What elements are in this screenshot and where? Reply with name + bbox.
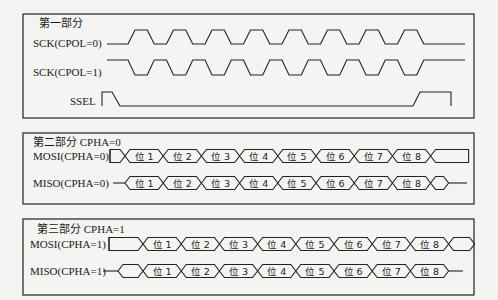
bit-label: 位 2: [173, 151, 192, 162]
mosi-cpha1-bus: 位 1位 2位 3位 4位 5位 6位 7位 8: [109, 238, 475, 251]
bit-label: 位 3: [211, 178, 230, 189]
mosi-cpha0-bus: 位 1位 2位 3位 4位 5位 6位 7位 8: [110, 150, 469, 163]
clock-path: [107, 60, 465, 75]
bit-label: 位 1: [153, 266, 172, 277]
signal-label-miso-cpha1: MISO(CPHA=1): [30, 265, 106, 278]
bit-label: 位 2: [191, 239, 210, 250]
bit-label: 位 8: [402, 151, 421, 162]
section-1-title: 第一部分: [39, 16, 83, 29]
idle-cell: [118, 265, 143, 278]
bit-label: 位 5: [287, 151, 306, 162]
bit-label: 位 5: [287, 178, 306, 189]
idle-cell: [449, 238, 475, 251]
bit-label: 位 3: [229, 266, 248, 277]
bit-label: 位 1: [135, 151, 154, 162]
miso-cpha1-bus: 位 1位 2位 3位 4位 5位 6位 7位 8: [103, 265, 463, 278]
idle-cell: [110, 150, 125, 163]
bit-label: 位 4: [249, 151, 268, 162]
idle-cell: [431, 150, 469, 163]
clock-path: [107, 30, 465, 44]
signal-label-ssel: SSEL: [70, 95, 96, 107]
miso-cpha0-bus: 位 1位 2位 3位 4位 5位 6位 7位 8: [113, 177, 467, 190]
sck-cpol1-waveform: [107, 60, 465, 75]
bit-label: 位 7: [382, 239, 401, 250]
bit-label: 位 5: [305, 239, 324, 250]
bit-label: 位 2: [191, 266, 210, 277]
bit-label: 位 3: [211, 151, 230, 162]
bit-label: 位 8: [420, 239, 439, 250]
bit-label: 位 7: [364, 178, 383, 189]
bit-label: 位 4: [267, 239, 286, 250]
section-2-title: 第二部分 CPHA=0: [33, 135, 121, 148]
bit-label: 位 7: [364, 151, 383, 162]
bit-label: 位 7: [382, 266, 401, 277]
signal-label-sck-cpol1: SCK(CPOL=1): [33, 66, 102, 79]
idle-cell: [109, 238, 143, 251]
bit-label: 位 4: [267, 266, 286, 277]
ssel-waveform: [102, 92, 451, 106]
signal-label-mosi-cpha1: MOSI(CPHA=1): [30, 238, 106, 251]
bit-label: 位 8: [402, 178, 421, 189]
signal-label-sck-cpol0: SCK(CPOL=0): [33, 37, 102, 50]
idle-cell: [431, 177, 449, 190]
bit-label: 位 6: [326, 151, 345, 162]
bit-label: 位 3: [229, 239, 248, 250]
bit-label: 位 6: [326, 178, 345, 189]
bit-label: 位 8: [420, 266, 439, 277]
bit-label: 位 4: [249, 178, 268, 189]
bit-label: 位 6: [344, 239, 363, 250]
bit-label: 位 6: [344, 266, 363, 277]
section-3-title: 第三部分 CPHA=1: [37, 222, 125, 235]
spi-timing-diagram: 第一部分 SCK(CPOL=0) SCK(CPOL=1) SSEL 第二部分 C…: [0, 0, 498, 300]
bit-label: 位 1: [135, 178, 154, 189]
bit-label: 位 1: [153, 239, 172, 250]
signal-label-mosi-cpha0: MOSI(CPHA=0): [33, 150, 109, 163]
bit-label: 位 5: [305, 266, 324, 277]
signal-label-miso-cpha0: MISO(CPHA=0): [33, 177, 109, 190]
bit-label: 位 2: [173, 178, 192, 189]
sck-cpol0-waveform: [107, 30, 465, 44]
